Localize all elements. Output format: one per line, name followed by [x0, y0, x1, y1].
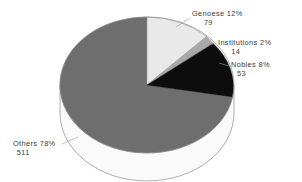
pie-label-genoese-name: Genoese 12% [192, 9, 243, 18]
pie-label-institutions-value: 14 [218, 47, 271, 56]
pie-label-others-name: Others 78% [13, 139, 56, 148]
pie-label-others-value: 511 [13, 148, 56, 157]
pie-label-institutions-name: Institutions 2% [218, 38, 271, 47]
pie-label-nobles-value: 53 [231, 69, 270, 78]
pie-label-genoese: Genoese 12% 79 [192, 9, 243, 27]
pie-label-institutions: Institutions 2% 14 [218, 38, 271, 56]
pie-label-genoese-value: 79 [192, 18, 243, 27]
pie-chart-figure: Genoese 12% 79 Institutions 2% 14 Nobles… [0, 0, 302, 182]
pie-top-face [60, 17, 234, 153]
pie-label-others: Others 78% 511 [13, 139, 56, 157]
pie-label-nobles: Nobles 8% 53 [231, 60, 270, 78]
pie-label-nobles-name: Nobles 8% [231, 60, 270, 69]
